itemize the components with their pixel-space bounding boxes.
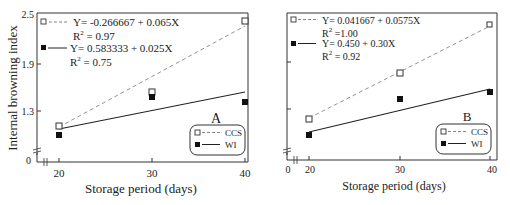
- y-tick-label: 2.5: [22, 9, 35, 20]
- legend-ccs-marker-icon: [441, 129, 446, 134]
- x-tick-label: 30: [395, 164, 405, 175]
- legend-ccs-label: CCS: [225, 128, 242, 138]
- ccs-equation: Y= 0.041667 + 0.0575X: [322, 15, 421, 26]
- x-tick-label: 20: [305, 164, 315, 175]
- panel-label: A: [211, 111, 222, 126]
- wi-data-point: [56, 132, 62, 138]
- wi-r2: R2 = 0.75: [70, 55, 112, 68]
- wi-equation: Y= 0.583333 + 0.025X: [70, 42, 173, 54]
- legend-wi-marker-icon: [441, 141, 446, 146]
- x-tick-label: 0: [286, 164, 291, 175]
- y-tick-label: 1.3: [22, 106, 35, 117]
- ccs-data-point: [487, 22, 492, 27]
- y-axis-label: Internal browning index: [5, 25, 20, 151]
- ccs-data-point: [397, 70, 403, 76]
- legend-wi-marker-icon: [195, 142, 200, 147]
- wi-equation: Y= 0.450 + 0.30X: [322, 38, 396, 49]
- wi-data-point: [242, 99, 248, 105]
- x-tick-label: 40: [240, 167, 252, 179]
- wi-data-point: [487, 89, 493, 95]
- wi-r2: R2 = 0.92: [322, 49, 360, 62]
- ccs-equation-marker-icon: [41, 19, 46, 24]
- legend-ccs-marker-icon: [195, 130, 200, 135]
- wi-data-point: [306, 132, 312, 138]
- y-tick-label: 0: [26, 155, 31, 166]
- x-axis-label: Storage period (days): [342, 179, 445, 193]
- x-tick-label: 20: [54, 167, 66, 179]
- ccs-r2: R2 = 0.97: [73, 29, 115, 42]
- figure: 2.5 1.9 1.3 0 20 30 40 Storage period (d…: [0, 0, 510, 205]
- x-axis-label: Storage period (days): [85, 181, 197, 196]
- x-tick-label: 30: [147, 167, 159, 179]
- y-tick-label: 1.9: [22, 59, 35, 70]
- wi-equation-marker-icon: [291, 41, 296, 46]
- wi-data-point: [149, 94, 155, 100]
- wi-data-point: [397, 96, 403, 102]
- ccs-data-point: [242, 18, 248, 24]
- legend-wi-label: WI: [471, 139, 483, 149]
- ccs-data-point: [56, 123, 62, 129]
- panel-a: 2.5 1.9 1.3 0 20 30 40 Storage period (d…: [5, 9, 251, 196]
- ccs-equation-marker-icon: [291, 17, 296, 22]
- panel-label: B: [463, 109, 472, 124]
- x-tick-label: 40: [487, 164, 497, 175]
- panel-b: 0 20 30 40 Storage period (days) Y= 0.04…: [283, 13, 497, 193]
- legend-wi-label: WI: [225, 140, 237, 150]
- legend-ccs-label: CCS: [471, 127, 488, 137]
- ccs-equation: Y= -0.266667 + 0.065X: [73, 16, 179, 28]
- ccs-data-point: [306, 116, 312, 122]
- wi-equation-marker-icon: [41, 45, 46, 50]
